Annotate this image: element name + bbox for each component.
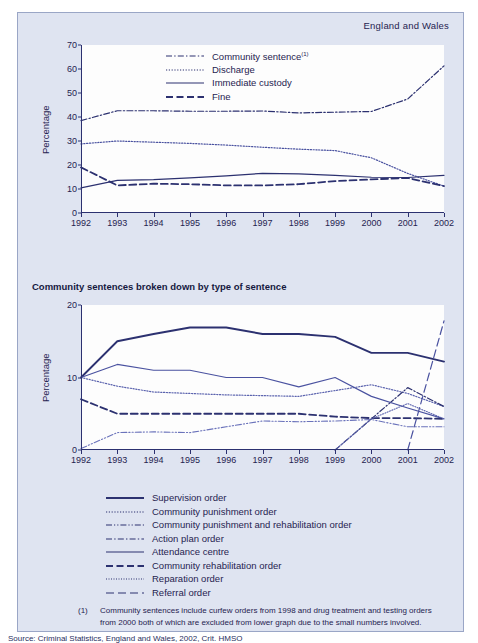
legend-line-swatch-icon (106, 492, 146, 503)
source-line: Source: Criminal Statistics, England and… (8, 634, 242, 643)
series-line (81, 141, 444, 186)
x-tick-mark (299, 450, 300, 454)
legend-line-swatch-icon (166, 50, 206, 61)
x-tick-mark (226, 450, 227, 454)
lower-chart-plot-area: 0102019921993199419951996199719981999200… (81, 305, 444, 450)
legend-line-swatch-icon (106, 546, 146, 557)
legend-line-swatch-icon (106, 519, 146, 530)
upper-chart-legend-item: Community sentence(1) (166, 49, 309, 63)
x-tick-mark (117, 213, 118, 217)
lower-chart-legend-item: Action plan order (106, 532, 352, 546)
legend-line-swatch-icon (166, 77, 206, 88)
lower-chart-y-axis (81, 305, 82, 450)
region-label: England and Wales (364, 20, 449, 31)
legend-line-swatch-icon (106, 573, 146, 584)
footnote: (1) Community sentences include curfew o… (78, 605, 438, 628)
x-tick-mark (299, 213, 300, 217)
upper-chart-legend-item: Immediate custody (166, 76, 309, 90)
legend-item-label: Action plan order (152, 533, 224, 544)
lower-chart-legend-item: Attendance centre (106, 545, 352, 559)
legend-item-label: Referral order (152, 587, 211, 598)
legend-line-swatch-icon (166, 64, 206, 75)
x-tick-mark (335, 213, 336, 217)
x-tick-mark (263, 450, 264, 454)
legend-item-label: Supervision order (152, 492, 226, 503)
lower-chart-series-svg (81, 305, 444, 450)
series-line (81, 327, 444, 377)
legend-item-label: Reparation order (152, 573, 223, 584)
x-tick-mark (408, 213, 409, 217)
y-tick-mark (78, 165, 81, 166)
y-tick-mark (78, 69, 81, 70)
x-tick-mark (154, 213, 155, 217)
upper-chart-legend: Community sentence(1)DischargeImmediate … (166, 49, 309, 103)
lower-chart-legend-item: Referral order (106, 586, 352, 600)
legend-item-label: Community rehabilitation order (152, 560, 281, 571)
series-line (81, 420, 444, 449)
legend-line-swatch-icon (106, 506, 146, 517)
y-tick-mark (78, 117, 81, 118)
y-tick-mark (78, 377, 81, 378)
x-tick-mark (444, 450, 445, 454)
y-tick-mark (78, 305, 81, 306)
y-tick-mark (78, 45, 81, 46)
legend-item-label: Community sentence(1) (212, 49, 309, 62)
lower-chart-y-axis-label: Percentage (40, 353, 51, 402)
lower-chart-legend-item: Community punishment order (106, 505, 352, 519)
x-tick-mark (444, 213, 445, 217)
figure-panel: England and Wales Percentage 01020304050… (17, 12, 464, 632)
footnote-text: Community sentences include curfew order… (100, 605, 438, 628)
x-tick-mark (81, 213, 82, 217)
x-tick-mark (226, 213, 227, 217)
x-tick-mark (190, 450, 191, 454)
upper-chart-y-axis (81, 45, 82, 213)
lower-section-title: Community sentences broken down by type … (32, 281, 286, 292)
y-tick-mark (78, 93, 81, 94)
lower-chart-legend: Supervision orderCommunity punishment or… (106, 491, 352, 599)
legend-line-swatch-icon (166, 91, 206, 102)
x-tick-mark (81, 450, 82, 454)
x-tick-mark (371, 213, 372, 217)
legend-item-label: Fine (212, 91, 230, 102)
y-tick-mark (78, 141, 81, 142)
lower-chart: Percentage 01020199219931994199519961997… (18, 295, 465, 485)
legend-item-label: Immediate custody (212, 77, 292, 88)
x-tick-mark (335, 450, 336, 454)
x-tick-mark (408, 450, 409, 454)
x-tick-mark (190, 213, 191, 217)
upper-chart: Percentage 01020304050607019921993199419… (18, 35, 465, 250)
lower-chart-legend-item: Supervision order (106, 491, 352, 505)
legend-line-swatch-icon (106, 560, 146, 571)
x-tick-mark (263, 213, 264, 217)
upper-chart-y-axis-label: Percentage (40, 105, 51, 154)
legend-item-label: Community punishment and rehabilitation … (152, 519, 352, 530)
legend-item-label: Community punishment order (152, 506, 277, 517)
series-line (408, 321, 444, 450)
upper-chart-legend-item: Fine (166, 90, 309, 104)
legend-item-label: Attendance centre (152, 546, 229, 557)
footnote-marker: (1) (78, 605, 98, 617)
lower-chart-legend-item: Reparation order (106, 572, 352, 586)
lower-chart-legend-item: Community rehabilitation order (106, 559, 352, 573)
x-tick-mark (154, 450, 155, 454)
legend-footnote-marker: (1) (301, 51, 308, 57)
legend-item-label: Discharge (212, 64, 255, 75)
x-tick-mark (117, 450, 118, 454)
x-tick-mark (371, 450, 372, 454)
y-tick-mark (78, 189, 81, 190)
legend-line-swatch-icon (106, 533, 146, 544)
lower-chart-legend-item: Community punishment and rehabilitation … (106, 518, 352, 532)
upper-chart-legend-item: Discharge (166, 63, 309, 77)
legend-line-swatch-icon (106, 587, 146, 598)
